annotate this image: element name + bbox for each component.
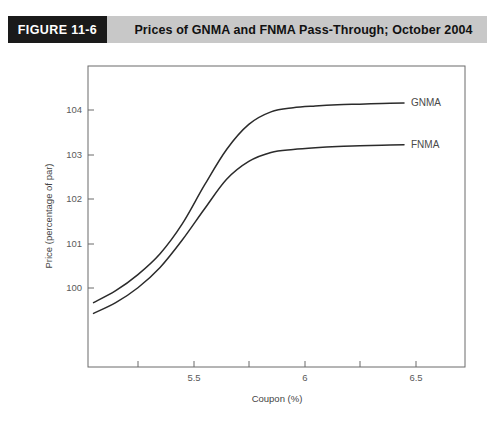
y-tick-label-100: 100 [66, 282, 82, 293]
y-tick-label-104: 104 [66, 104, 82, 115]
figure-number-tag: FIGURE 11-6 [8, 16, 107, 43]
y-tick-label-102: 102 [66, 193, 82, 204]
series-label-gnma: GNMA [411, 97, 441, 108]
x-tick-label-6: 6 [302, 372, 307, 383]
figure-page: FIGURE 11-6 Prices of GNMA and FNMA Pass… [0, 0, 497, 423]
series-line-fnma [94, 145, 404, 314]
plot-frame [88, 66, 465, 367]
y-tick-label-103: 103 [66, 149, 82, 160]
line-chart: 104 103 102 101 100 5.5 6 6.5 Co [0, 48, 497, 423]
x-axis-title: Coupon (%) [252, 393, 303, 404]
x-tick-label-5-5: 5.5 [187, 372, 200, 383]
x-axis-tick-labels: 5.5 6 6.5 [187, 372, 422, 383]
y-tick-label-101: 101 [66, 238, 82, 249]
y-axis-tick-labels: 104 103 102 101 100 [66, 104, 82, 293]
figure-title: Prices of GNMA and FNMA Pass-Through; Oc… [120, 16, 487, 43]
y-axis-ticks [88, 110, 94, 288]
series-line-gnma [94, 103, 404, 303]
chart-container: 104 103 102 101 100 5.5 6 6.5 Co [0, 48, 497, 423]
y-axis-title: Price (percentage of par) [43, 163, 54, 268]
x-axis-ticks [138, 361, 416, 367]
x-tick-label-6-5: 6.5 [409, 372, 422, 383]
series-label-fnma: FNMA [411, 139, 440, 150]
